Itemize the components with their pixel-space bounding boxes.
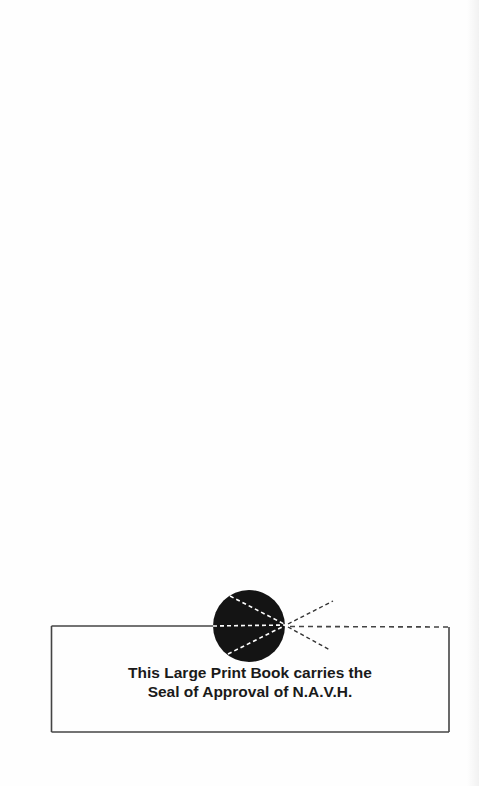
- seal-rays-outer: [288, 601, 333, 650]
- seal-notice-line-1: This Large Print Book carries the: [52, 664, 448, 682]
- dashed-top-border: [290, 627, 449, 628]
- book-page: This Large Print Book carries the Seal o…: [0, 0, 479, 786]
- seal-notice-line-2: Seal of Approval of N.A.V.H.: [52, 683, 448, 701]
